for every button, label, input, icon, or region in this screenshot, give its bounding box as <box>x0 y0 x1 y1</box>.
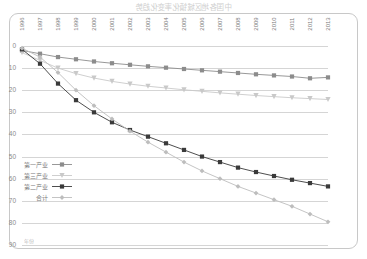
data-point-marker <box>110 61 114 65</box>
data-point-marker <box>200 68 204 72</box>
data-point-marker <box>218 176 223 181</box>
data-point-marker <box>200 169 205 174</box>
legend-item[interactable]: 第二产业 <box>24 182 73 191</box>
legend-item[interactable]: 第一产业 <box>24 160 73 169</box>
data-point-marker <box>92 110 96 114</box>
legend-marker-icon <box>51 172 73 179</box>
data-point-marker <box>56 55 60 59</box>
data-point-marker <box>272 73 276 77</box>
x-tick-label: 2011 <box>289 15 295 33</box>
x-tick-label: 2009 <box>253 15 259 33</box>
data-point-marker <box>254 170 258 174</box>
y-tick-label: 40 <box>9 130 16 137</box>
legend-item[interactable]: 合计 <box>24 193 73 202</box>
plot-area: 0102030405060708090 19961997199819992000… <box>22 46 328 245</box>
x-tick-label: 2013 <box>325 15 331 33</box>
data-point-marker <box>38 62 42 66</box>
x-tick-label: 1997 <box>37 15 43 33</box>
data-point-marker <box>326 219 331 224</box>
series-layer <box>22 46 328 245</box>
x-tick-label: 2007 <box>217 15 223 33</box>
data-point-marker <box>146 135 150 139</box>
data-series <box>20 48 330 80</box>
x-tick-label: 2005 <box>181 15 187 33</box>
data-point-marker <box>308 212 313 217</box>
data-point-marker <box>254 191 259 196</box>
legend-marker-icon <box>51 161 73 168</box>
x-tick-label: 2000 <box>91 15 97 33</box>
data-point-marker <box>56 81 60 85</box>
data-point-marker <box>218 70 222 74</box>
y-tick-label: 30 <box>9 108 16 115</box>
legend-item[interactable]: 第三产业 <box>24 171 73 180</box>
y-tick-label: 90 <box>9 241 16 248</box>
legend-marker-icon <box>51 183 73 190</box>
data-point-marker <box>254 72 258 76</box>
data-point-marker <box>308 76 312 80</box>
data-point-marker <box>236 71 240 75</box>
x-tick-label: 2006 <box>199 15 205 33</box>
gridline <box>22 245 328 246</box>
axis-note-label: 年份 <box>24 237 34 244</box>
data-point-marker <box>182 148 186 152</box>
legend-marker-icon <box>51 194 73 201</box>
data-point-marker <box>182 160 187 165</box>
x-tick-label: 1999 <box>73 15 79 33</box>
data-point-marker <box>92 59 96 63</box>
data-point-marker <box>290 178 294 182</box>
legend-label: 第一产业 <box>24 160 48 169</box>
x-tick-label: 2010 <box>271 15 277 33</box>
data-point-marker <box>164 150 169 155</box>
y-tick-label: 50 <box>9 153 16 160</box>
legend-label: 第三产业 <box>24 171 48 180</box>
x-tick-label: 2012 <box>307 15 313 33</box>
x-tick-label: 2003 <box>145 15 151 33</box>
x-tick-label: 1998 <box>55 15 61 33</box>
data-point-marker <box>236 184 241 189</box>
y-tick-label: 60 <box>9 175 16 182</box>
chart-title: 中国各地区城镇化率变化趋势 <box>0 1 367 12</box>
mirrored-chart-canvas: 中国各地区城镇化率变化趋势 0102030405060708090 199619… <box>0 0 367 259</box>
data-point-marker <box>290 204 295 209</box>
data-point-marker <box>182 67 186 71</box>
data-point-marker <box>74 98 78 102</box>
data-point-marker <box>218 160 222 164</box>
y-tick-label: 20 <box>9 86 16 93</box>
data-point-marker <box>326 184 330 188</box>
y-tick-label: 10 <box>9 64 16 71</box>
x-tick-label: 2004 <box>163 15 169 33</box>
legend-label: 第二产业 <box>24 182 48 191</box>
x-tick-label: 2001 <box>109 15 115 33</box>
x-tick-label: 2002 <box>127 15 133 33</box>
chart-legend: 第一产业第三产业第二产业合计 <box>24 160 73 202</box>
data-point-marker <box>236 166 240 170</box>
legend-label: 合计 <box>36 193 48 202</box>
data-point-marker <box>272 174 276 178</box>
data-point-marker <box>290 74 294 78</box>
x-tick-label: 1996 <box>19 15 25 33</box>
data-point-marker <box>146 64 150 68</box>
data-point-marker <box>55 66 60 71</box>
y-tick-label: 80 <box>9 219 16 226</box>
data-point-marker <box>164 141 168 145</box>
data-point-marker <box>272 197 277 202</box>
data-point-marker <box>164 66 168 70</box>
data-point-marker <box>146 140 151 145</box>
chart-frame: 0102030405060708090 19961997199819992000… <box>9 13 358 249</box>
data-point-marker <box>200 154 204 158</box>
y-tick-label: 70 <box>9 197 16 204</box>
y-tick-label: 0 <box>12 42 16 49</box>
data-point-marker <box>74 57 78 61</box>
data-point-marker <box>326 75 330 79</box>
data-point-marker <box>308 181 312 185</box>
data-point-marker <box>128 63 132 67</box>
x-tick-label: 2008 <box>235 15 241 33</box>
